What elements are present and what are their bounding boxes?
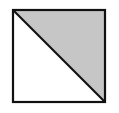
diagram-canvas (0, 0, 119, 113)
